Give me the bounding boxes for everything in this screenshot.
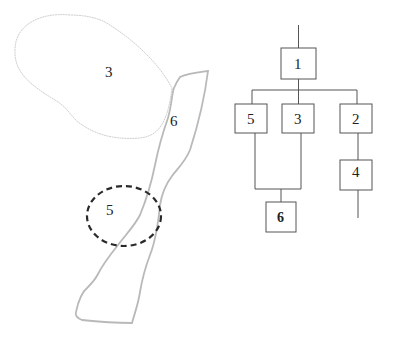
region-5-label: 5 xyxy=(106,202,114,218)
region-6-label: 6 xyxy=(170,113,178,129)
tree-node-5-label: 5 xyxy=(247,111,255,127)
region-6-outline xyxy=(76,71,208,323)
tree-node-1-label: 1 xyxy=(294,56,302,72)
tree-node-6-label: 6 xyxy=(277,210,284,225)
region-3-outline xyxy=(15,15,172,139)
region-3-label: 3 xyxy=(105,64,113,80)
diagram-canvas: 3 6 5 1 5 3 2 4 6 xyxy=(0,0,399,340)
tree-node-2-label: 2 xyxy=(352,111,360,127)
tree-node-3-label: 3 xyxy=(294,111,302,127)
tree-node-4-label: 4 xyxy=(352,164,360,180)
